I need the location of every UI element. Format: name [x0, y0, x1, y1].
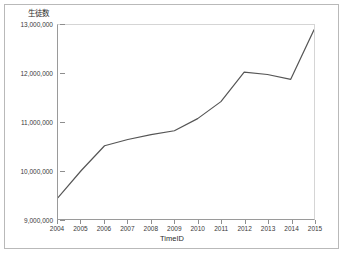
x-axis-title: TimeID — [0, 234, 344, 244]
x-tick-mark — [57, 220, 58, 224]
x-tick-label: 2014 — [284, 225, 298, 232]
x-tick-mark — [174, 220, 175, 224]
x-tick-label: 2009 — [167, 225, 181, 232]
x-tick-mark — [315, 220, 316, 224]
x-tick-label: 2011 — [214, 225, 228, 232]
x-tick-mark — [151, 220, 152, 224]
x-tick-label: 2004 — [50, 225, 64, 232]
x-tick-mark — [127, 220, 128, 224]
x-tick-label: 2006 — [97, 225, 111, 232]
x-tick-mark — [292, 220, 293, 224]
x-tick-mark — [198, 220, 199, 224]
chart-screenshot: 生徒数 9,000,00010,000,00011,000,00012,000,… — [0, 0, 344, 254]
x-tick-label: 2008 — [144, 225, 158, 232]
x-tick-label: 2015 — [308, 225, 322, 232]
x-tick-label: 2012 — [237, 225, 251, 232]
x-tick-mark — [268, 220, 269, 224]
x-axis-tick-labels: 2004200520062007200820092010201120122013… — [0, 0, 344, 254]
x-tick-label: 2010 — [190, 225, 204, 232]
x-tick-mark — [221, 220, 222, 224]
x-tick-mark — [104, 220, 105, 224]
x-tick-mark — [80, 220, 81, 224]
x-tick-label: 2007 — [120, 225, 134, 232]
x-tick-label: 2005 — [73, 225, 87, 232]
x-tick-mark — [245, 220, 246, 224]
x-tick-label: 2013 — [261, 225, 275, 232]
